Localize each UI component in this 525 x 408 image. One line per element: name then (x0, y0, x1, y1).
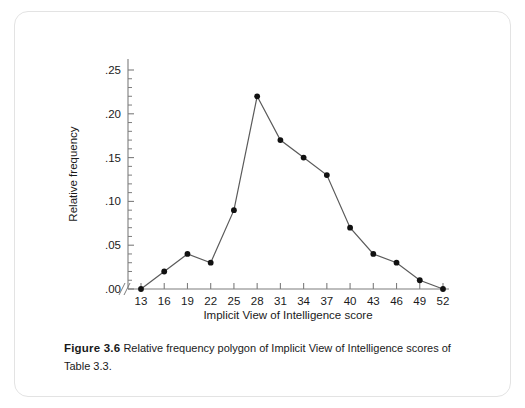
data-point (161, 269, 167, 275)
x-tick-label: 28 (251, 295, 264, 307)
x-axis-tick-labels: 1316192225283134374043464952 (135, 295, 450, 307)
x-tick-label: 49 (413, 295, 426, 307)
data-point (324, 172, 330, 178)
x-tick-label: 19 (181, 295, 194, 307)
x-axis-ticks (141, 283, 443, 289)
figure-caption: Figure 3.6 Relative frequency polygon of… (64, 340, 474, 375)
data-point (208, 260, 214, 266)
x-tick-label: 46 (390, 295, 403, 307)
figure-card: .00.05.10.15.20.25 131619222528313437404… (14, 11, 511, 397)
y-axis-title: Relative frequency (67, 126, 79, 221)
data-point-markers (138, 93, 446, 292)
data-point (231, 207, 237, 213)
y-tick-label: .25 (105, 64, 121, 76)
y-axis-major-ticks (128, 70, 134, 289)
data-point (370, 251, 376, 257)
x-tick-label: 31 (274, 295, 287, 307)
y-tick-label: .05 (105, 239, 121, 251)
data-point (394, 260, 400, 266)
x-tick-label: 22 (204, 295, 217, 307)
data-point (185, 251, 191, 257)
data-point (440, 286, 446, 292)
figure-caption-text: Relative frequency polygon of Implicit V… (64, 342, 451, 372)
x-tick-label: 34 (297, 295, 310, 307)
y-axis-tick-labels: .00.05.10.15.20.25 (105, 64, 121, 295)
y-tick-label: .20 (105, 108, 121, 120)
data-point (138, 286, 144, 292)
x-tick-label: 43 (367, 295, 380, 307)
y-tick-label: .15 (105, 152, 121, 164)
x-tick-label: 16 (158, 295, 171, 307)
x-axis-title: Implicit View of Intelligence score (203, 309, 372, 321)
x-tick-label: 13 (135, 295, 148, 307)
data-point (254, 93, 260, 99)
data-point (417, 277, 423, 283)
x-tick-label: 40 (344, 295, 357, 307)
x-tick-label: 52 (437, 295, 450, 307)
data-point (277, 137, 283, 143)
x-tick-label: 37 (320, 295, 333, 307)
data-point (347, 225, 353, 231)
figure-number-label: Figure 3.6 (64, 342, 120, 354)
data-point (301, 155, 307, 161)
chart-figure: .00.05.10.15.20.25 131619222528313437404… (15, 12, 512, 332)
x-tick-label: 25 (228, 295, 241, 307)
y-tick-label: .00 (105, 283, 121, 295)
y-tick-label: .10 (105, 195, 121, 207)
relative-frequency-polygon-chart: .00.05.10.15.20.25 131619222528313437404… (15, 12, 512, 332)
y-axis-minor-ticks (128, 79, 132, 280)
